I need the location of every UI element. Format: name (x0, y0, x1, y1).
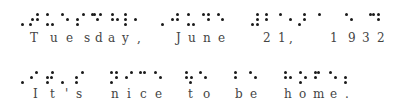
print-letter: e (330, 87, 337, 101)
print-letters: It'snicetobehome. (0, 87, 402, 103)
braille-dot (139, 71, 142, 74)
braille-dot (30, 76, 33, 79)
braille-dot (115, 71, 118, 74)
print-letter: 2 (377, 31, 385, 45)
print-letter: c (140, 87, 147, 101)
print-letter: o (203, 87, 210, 101)
braille-dot (189, 81, 192, 84)
braille-dot (46, 81, 49, 84)
print-letter: 1 (278, 31, 286, 45)
braille-dot (61, 81, 64, 84)
print-letter: 9 (348, 31, 356, 45)
braille-dot (110, 71, 113, 74)
braille-dot (143, 71, 146, 74)
braille-dot (125, 76, 128, 79)
braille-dot (284, 71, 287, 74)
print-letter: d (95, 31, 103, 45)
print-letter: s (84, 31, 90, 45)
print-letter: e (218, 31, 225, 45)
braille-dot (35, 71, 38, 74)
print-letter: J (176, 31, 181, 45)
print-letter: e (66, 31, 73, 45)
print-letter: m (313, 87, 324, 101)
braille-dot (75, 76, 78, 79)
print-letter: s (76, 87, 82, 101)
braille-dot (317, 71, 320, 74)
braille-dot (21, 81, 24, 84)
print-letter: 1 (330, 31, 338, 45)
braille-dot (254, 76, 257, 79)
braille-dot (299, 71, 302, 74)
print-letter: e (250, 87, 257, 101)
print-letter: t (188, 87, 193, 101)
braille-dot (190, 76, 193, 79)
braille-dot (199, 71, 202, 74)
braille-dots (0, 0, 402, 24)
braille-dot (234, 71, 237, 74)
print-letter: u (188, 31, 196, 45)
braille-dot (51, 71, 54, 74)
print-letter: t (50, 87, 55, 101)
print-letter: n (203, 31, 211, 45)
print-letter: b (235, 87, 243, 101)
braille-dot (234, 76, 237, 79)
braille-dot (75, 81, 78, 84)
print-letter: h (284, 87, 292, 101)
print-letter: , (289, 31, 293, 45)
print-letter: I (33, 87, 38, 101)
print-letters: Tuesday,June21,1932 (0, 31, 402, 47)
braille-dot (289, 76, 292, 79)
braille-dot (185, 76, 188, 79)
print-letter: y (122, 31, 129, 45)
braille-dot (304, 76, 307, 79)
braille-dot (185, 71, 188, 74)
print-letter: i (127, 87, 131, 101)
print-letter: a (108, 31, 115, 45)
braille-dot (159, 76, 162, 79)
print-letter: ' (65, 87, 68, 101)
braille-dot (314, 76, 317, 79)
braille-dot (204, 76, 207, 79)
braille-dot (284, 76, 287, 79)
braille-dot (344, 81, 347, 84)
braille-dot (334, 76, 337, 79)
braille-dot (299, 81, 302, 84)
braille-dot (154, 71, 157, 74)
braille-dot (46, 76, 49, 79)
print-letter: 2 (263, 31, 271, 45)
braille-dot (130, 71, 133, 74)
print-letter: 3 (362, 31, 370, 45)
print-letter: e (155, 87, 162, 101)
braille-dot (249, 71, 252, 74)
print-letter: u (50, 31, 58, 45)
braille-dot (81, 71, 84, 74)
braille-dot (329, 71, 332, 74)
print-letter: o (299, 87, 306, 101)
braille-dot (50, 76, 53, 79)
braille-dot (115, 76, 118, 79)
print-letter: . (345, 87, 349, 101)
print-letter: , (137, 31, 141, 45)
braille-dot (110, 81, 113, 84)
print-letter: T (30, 31, 38, 45)
braille-dot (344, 76, 347, 79)
print-letter: n (111, 87, 119, 101)
